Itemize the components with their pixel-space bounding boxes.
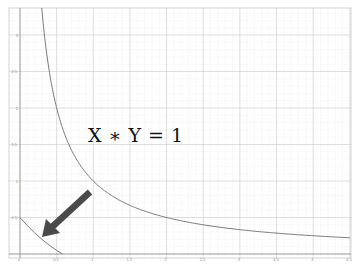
y-tick-label: 1.5 [11, 142, 17, 147]
y-tick-label: 0.5 [11, 215, 17, 220]
y-tick-label: 2.5 [11, 69, 17, 74]
x-tick-label: 2.5 [200, 257, 206, 262]
x-tick-label: 1.5 [126, 257, 132, 262]
x-tick-label: 4.5 [346, 257, 352, 262]
equation-annotation: X ∗ Y = 1 [88, 124, 184, 146]
x-tick-label: 3.5 [273, 257, 279, 262]
x-tick-label: 0.5 [53, 257, 59, 262]
